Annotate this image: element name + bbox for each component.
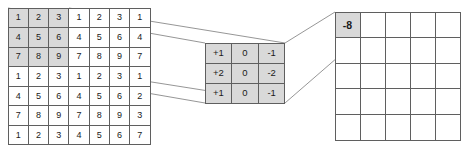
- input-feature-map-cell: 7: [8, 105, 29, 126]
- input-feature-map-cell: 3: [129, 105, 150, 126]
- input-feature-map-cell: 4: [68, 125, 89, 146]
- sobel-kernel-cell: -1: [258, 43, 286, 64]
- output-feature-map-cell: [410, 12, 436, 39]
- input-feature-map-cell: 1: [129, 8, 150, 29]
- output-feature-map-cell: [385, 37, 411, 64]
- input-feature-map-cell: 6: [109, 27, 130, 48]
- input-feature-map-cell: 3: [48, 125, 69, 146]
- sobel-kernel-cell: +1: [205, 83, 233, 104]
- sobel-kernel-cell: +1: [205, 43, 233, 64]
- input-feature-map-cell: 1: [129, 66, 150, 87]
- input-feature-map-cell: 5: [89, 86, 110, 107]
- output-feature-map-cell: [360, 88, 386, 115]
- sobel-kernel-cell: 0: [231, 43, 259, 64]
- output-feature-map-cell: [410, 88, 436, 115]
- input-feature-map-cell: 2: [129, 86, 150, 107]
- input-feature-map-cell: 5: [89, 27, 110, 48]
- input-feature-map-cell: 7: [129, 47, 150, 68]
- input-feature-map-cell: 1: [68, 66, 89, 87]
- sobel-kernel-grid: +10-1+20-2+10-1: [205, 43, 285, 103]
- input-feature-map-cell: 1: [8, 66, 29, 87]
- input-feature-map-cell: 4: [68, 86, 89, 107]
- diagram-canvas: 1231231456456478978971231231456456278978…: [0, 0, 470, 152]
- input-feature-map-cell: 9: [109, 47, 130, 68]
- input-feature-map-cell: 4: [129, 27, 150, 48]
- output-feature-map-grid: -8: [335, 12, 460, 140]
- output-feature-map-cell: [360, 114, 386, 141]
- input-feature-map-cell: 5: [28, 86, 49, 107]
- output-feature-map-cell: [360, 37, 386, 64]
- output-feature-map-cell: [410, 114, 436, 141]
- input-feature-map-cell: 2: [89, 8, 110, 29]
- output-feature-map-cell: [435, 114, 461, 141]
- output-feature-map-cell: [410, 63, 436, 90]
- input-feature-map-cell: 8: [28, 105, 49, 126]
- sobel-kernel-cell: 0: [231, 63, 259, 84]
- input-feature-map-cell: 6: [109, 125, 130, 146]
- input-feature-map-cell: 5: [28, 27, 49, 48]
- output-feature-map-cell: [435, 88, 461, 115]
- input-feature-map-cell: 2: [28, 66, 49, 87]
- input-feature-map-cell: 2: [28, 8, 49, 29]
- output-feature-map-cell: [385, 63, 411, 90]
- sobel-kernel-cell: -1: [258, 83, 286, 104]
- input-feature-map-cell: 8: [28, 47, 49, 68]
- sobel-kernel-cell: 0: [231, 83, 259, 104]
- input-feature-map-cell: 7: [8, 47, 29, 68]
- output-feature-map-cell: [385, 12, 411, 39]
- output-feature-map-cell: [335, 63, 361, 90]
- input-feature-map-cell: 3: [109, 8, 130, 29]
- input-feature-map-cell: 3: [48, 8, 69, 29]
- input-feature-map-cell: 9: [48, 105, 69, 126]
- input-feature-map-cell: 2: [28, 125, 49, 146]
- input-feature-map-cell: 3: [48, 66, 69, 87]
- input-feature-map-cell: 6: [48, 27, 69, 48]
- input-feature-map-cell: 2: [89, 66, 110, 87]
- input-feature-map-cell: 6: [48, 86, 69, 107]
- input-feature-map-cell: 7: [68, 105, 89, 126]
- output-feature-map-cell: [335, 114, 361, 141]
- input-feature-map-cell: 6: [109, 86, 130, 107]
- input-feature-map-cell: 7: [68, 47, 89, 68]
- input-feature-map-cell: 9: [48, 47, 69, 68]
- input-feature-map-cell: 4: [8, 27, 29, 48]
- input-feature-map-cell: 1: [68, 8, 89, 29]
- input-feature-map-cell: 4: [68, 27, 89, 48]
- output-feature-map-cell: [385, 88, 411, 115]
- output-feature-map-cell: [435, 12, 461, 39]
- input-feature-map-cell: 1: [8, 8, 29, 29]
- output-feature-map-cell: [335, 88, 361, 115]
- input-feature-map-cell: 1: [8, 125, 29, 146]
- output-feature-map-cell: [410, 37, 436, 64]
- input-feature-map-cell: 9: [109, 105, 130, 126]
- input-feature-map-cell: 8: [89, 47, 110, 68]
- sobel-kernel-cell: -2: [258, 63, 286, 84]
- input-feature-map-grid: 1231231456456478978971231231456456278978…: [8, 8, 150, 145]
- input-feature-map-cell: 7: [129, 125, 150, 146]
- input-feature-map-cell: 8: [89, 105, 110, 126]
- output-feature-map-cell: [360, 12, 386, 39]
- output-feature-map-cell: -8: [335, 12, 361, 39]
- output-feature-map-cell: [360, 63, 386, 90]
- input-feature-map-cell: 3: [109, 66, 130, 87]
- input-feature-map-cell: 4: [8, 86, 29, 107]
- input-feature-map-cell: 5: [89, 125, 110, 146]
- output-feature-map-cell: [335, 37, 361, 64]
- sobel-kernel-cell: +2: [205, 63, 233, 84]
- kernel-top-to-output-cell-top: [285, 12, 335, 43]
- output-feature-map-cell: [385, 114, 411, 141]
- output-feature-map-cell: [435, 37, 461, 64]
- output-feature-map-cell: [435, 63, 461, 90]
